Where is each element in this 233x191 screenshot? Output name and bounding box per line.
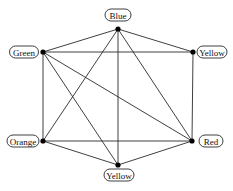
node-label-green: Green — [10, 46, 39, 58]
label-text: Yellow — [199, 48, 225, 58]
edge-blue-yellow_right — [118, 29, 193, 52]
node-label-yellow_right: Yellow — [197, 46, 227, 58]
node-green — [40, 49, 45, 54]
label-text: Yellow — [106, 171, 132, 181]
labels-group: BlueYellowRedYellowOrangeGreen — [7, 9, 227, 181]
edge-blue-green — [43, 29, 118, 52]
edge-yellow_right-red — [192, 52, 193, 141]
node-label-red: Red — [199, 135, 223, 147]
edge-green-red — [43, 52, 192, 141]
edges-group — [43, 29, 193, 165]
label-text: Red — [204, 137, 219, 147]
node-blue — [115, 26, 120, 31]
node-label-yellow_bottom: Yellow — [104, 169, 134, 181]
edge-orange-yellow_bottom — [43, 141, 118, 165]
node-label-orange: Orange — [7, 135, 39, 147]
edge-blue-orange — [43, 29, 118, 141]
label-text: Orange — [10, 137, 37, 147]
graph-diagram: BlueYellowRedYellowOrangeGreen — [0, 0, 233, 191]
node-yellow_right — [190, 49, 195, 54]
node-yellow_bottom — [115, 162, 120, 167]
edge-green-yellow_bottom — [43, 52, 118, 165]
label-text: Green — [13, 48, 35, 58]
label-text: Blue — [110, 11, 127, 21]
node-label-blue: Blue — [105, 9, 131, 21]
edge-blue-red — [118, 29, 192, 141]
node-red — [189, 138, 194, 143]
node-orange — [40, 138, 45, 143]
edge-red-yellow_bottom — [118, 141, 192, 165]
